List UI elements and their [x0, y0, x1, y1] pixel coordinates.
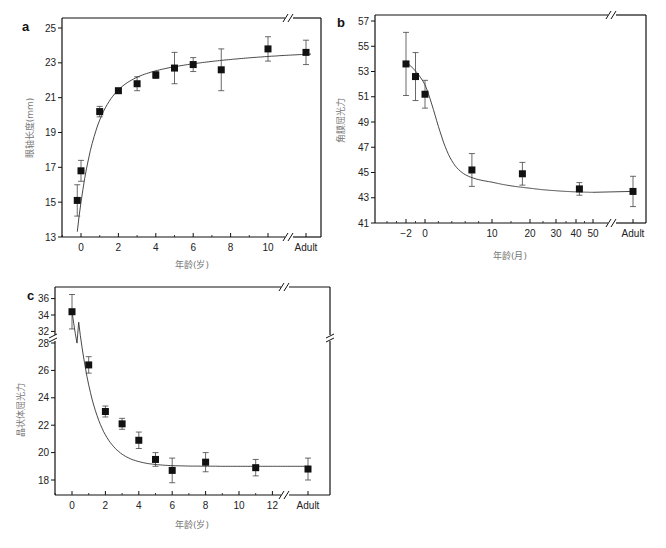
- data-point: [115, 87, 122, 94]
- y-tick-label: 36: [38, 293, 50, 304]
- data-point: [519, 170, 526, 177]
- data-point: [202, 459, 209, 466]
- data-point: [134, 80, 141, 87]
- data-point: [152, 456, 159, 463]
- data-point: [403, 60, 410, 67]
- y-tick-label: 15: [45, 197, 57, 208]
- data-point: [69, 308, 76, 315]
- figure: a 眼轴长度(mm) 年龄(岁) 131517192123250246810Ad…: [0, 0, 666, 548]
- panel-a-y-axis-title: 眼轴长度(mm): [24, 98, 35, 159]
- x-tick-label: Adult: [297, 500, 320, 511]
- panel-c-label: c: [27, 288, 34, 303]
- y-tick-label: 55: [358, 41, 370, 52]
- x-tick-label: 2: [103, 500, 109, 511]
- data-point: [422, 91, 429, 98]
- x-tick-label: 0: [78, 242, 84, 253]
- x-tick-label: 6: [169, 500, 175, 511]
- data-point: [576, 185, 583, 192]
- y-tick-label: 17: [45, 162, 57, 173]
- y-tick-label: 28: [38, 338, 50, 349]
- y-tick-label: 51: [358, 91, 370, 102]
- x-tick-label: 4: [136, 500, 142, 511]
- y-tick-label: 43: [358, 192, 370, 203]
- data-point: [152, 72, 159, 79]
- panel-a-chart: a 眼轴长度(mm) 年龄(岁) 131517192123250246810Ad…: [22, 14, 321, 270]
- y-tick-label: 25: [45, 23, 57, 34]
- y-tick-label: 57: [358, 16, 370, 27]
- x-tick-label: 10: [233, 500, 245, 511]
- x-tick-label: 12: [267, 500, 279, 511]
- x-tick-label: 4: [153, 242, 159, 253]
- fit-curve: [72, 312, 309, 467]
- panel-c-y-axis-title: 晶状体屈光力: [15, 383, 26, 437]
- y-tick-label: 53: [358, 66, 370, 77]
- y-tick-label: 20: [38, 447, 50, 458]
- panel-a-plot-area: 131517192123250246810Adult: [45, 14, 321, 253]
- data-point: [218, 66, 225, 73]
- panel-b-plot-area: 414345474951535557−201020304050Adult: [358, 11, 646, 239]
- x-tick-label: 40: [570, 228, 582, 239]
- x-tick-label: Adult: [295, 242, 318, 253]
- y-tick-label: 13: [45, 232, 57, 243]
- data-point: [303, 49, 310, 56]
- x-tick-label: −2: [400, 228, 412, 239]
- data-point: [135, 437, 142, 444]
- fit-curve: [77, 54, 311, 232]
- y-tick-label: 47: [358, 142, 370, 153]
- panel-c-plot-area: 182022242628323436024681012Adult: [38, 283, 334, 511]
- x-tick-label: 2: [116, 242, 122, 253]
- y-tick-label: 24: [38, 392, 50, 403]
- y-tick-label: 21: [45, 92, 57, 103]
- panel-b-x-axis-title: 年龄(月): [493, 250, 527, 261]
- panel-c-chart: c 晶状体屈光力 年龄(岁) 1820222426283234360246810…: [15, 283, 334, 530]
- data-point: [169, 467, 176, 474]
- data-point: [305, 466, 312, 473]
- x-tick-label: 0: [422, 228, 428, 239]
- x-tick-label: 30: [550, 228, 562, 239]
- data-point: [85, 361, 92, 368]
- y-tick-label: 45: [358, 167, 370, 178]
- x-tick-label: Adult: [622, 228, 645, 239]
- panel-b-y-axis-title: 角膜屈光力: [335, 98, 346, 143]
- data-point: [171, 65, 178, 72]
- panel-b-label: b: [337, 15, 345, 30]
- x-tick-label: 8: [228, 242, 234, 253]
- x-tick-label: 20: [524, 228, 536, 239]
- data-point: [265, 45, 272, 52]
- data-point: [78, 167, 85, 174]
- y-tick-label: 19: [45, 127, 57, 138]
- panel-a-label: a: [22, 19, 30, 34]
- y-tick-label: 49: [358, 117, 370, 128]
- data-point: [252, 464, 259, 471]
- x-tick-label: 6: [190, 242, 196, 253]
- figure-caption-cropped: [40, 538, 640, 548]
- y-tick-label: 22: [38, 420, 50, 431]
- x-tick-label: 0: [69, 500, 75, 511]
- data-point: [468, 166, 475, 173]
- data-point: [630, 188, 637, 195]
- y-tick-label: 18: [38, 475, 50, 486]
- data-point: [74, 197, 81, 204]
- y-tick-label: 34: [38, 310, 50, 321]
- y-tick-label: 23: [45, 57, 57, 68]
- panel-a-x-axis-title: 年龄(岁): [175, 259, 209, 270]
- x-tick-label: 10: [262, 242, 274, 253]
- y-tick-label: 32: [38, 326, 50, 337]
- y-tick-label: 26: [38, 365, 50, 376]
- data-point: [96, 108, 103, 115]
- y-tick-label: 41: [358, 218, 370, 229]
- panel-c-x-axis-title: 年龄(岁): [175, 519, 209, 530]
- x-tick-label: 50: [587, 228, 599, 239]
- panel-b-chart: b 角膜屈光力 年龄(月) 414345474951535557−2010203…: [335, 11, 646, 261]
- x-tick-label: 10: [486, 228, 498, 239]
- x-tick-label: 8: [203, 500, 209, 511]
- data-point: [190, 61, 197, 68]
- data-point: [102, 408, 109, 415]
- data-point: [412, 73, 419, 80]
- data-point: [119, 420, 126, 427]
